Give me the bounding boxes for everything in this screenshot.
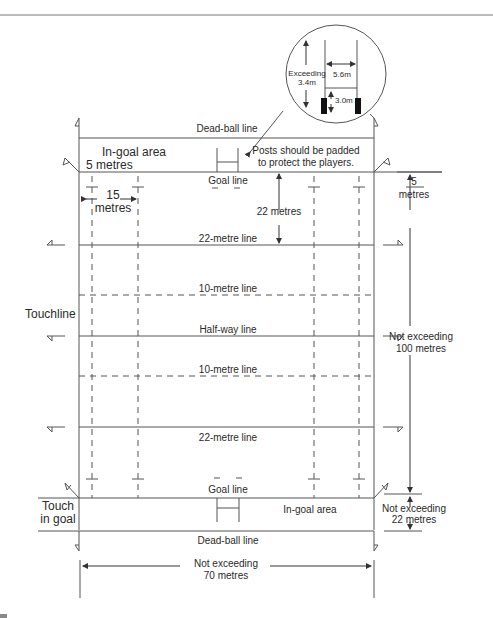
dead-ball-line-bottom-label: Dead-ball line	[197, 535, 258, 546]
length-label-2: 100 metres	[396, 343, 446, 354]
goal-post-inset	[247, 25, 386, 156]
width-label-2: 70 metres	[204, 570, 248, 581]
ten-metre-line-top-label: 10-metre line	[199, 283, 257, 294]
fifteen-metres-unit: metres	[95, 202, 132, 215]
half-way-line-label: Half-way line	[199, 324, 256, 335]
five-metres-top-label: 5 metres	[86, 159, 133, 172]
width-label-1: Not exceeding	[194, 558, 258, 569]
goal-posts-bottom	[217, 498, 239, 522]
touchline-label: Touchline	[25, 308, 76, 321]
twenty-two-line-top-label: 22-metre line	[199, 233, 257, 244]
length-label-1: Not exceeding	[389, 331, 453, 342]
in-goal-depth-label-2: 22 metres	[392, 514, 436, 525]
ten-metre-line-bottom-label: 10-metre line	[199, 364, 257, 375]
goal-posts-top	[217, 148, 238, 172]
five-metres-right-unit: metres	[399, 189, 430, 200]
twenty-two-line-bottom-label: 22-metre line	[199, 432, 257, 443]
goal-line-top-label: Goal line	[208, 175, 247, 186]
five-metres-right-num: 5	[411, 176, 417, 187]
dead-ball-line-top-label: Dead-ball line	[196, 123, 257, 134]
inset-width-label: 5.6m	[333, 70, 351, 79]
callout-line-2: to protect the players.	[258, 157, 354, 168]
touch-in-goal-label-2: in goal	[40, 513, 75, 526]
in-goal-depth-label-1: Not exceeding	[382, 503, 446, 514]
in-goal-area-bottom-label: In-goal area	[283, 504, 336, 515]
inset-height-label-1: Exceeding	[288, 69, 325, 78]
corner-mark	[0, 614, 7, 618]
inset-crossbar-label: 3.0m	[335, 96, 353, 105]
inset-height-label-2: 3.4m	[298, 78, 316, 87]
callout-line-1: Posts should be padded	[252, 145, 359, 156]
goal-line-bottom-label: Goal line	[208, 484, 247, 495]
twenty-two-metres-label: 22 metres	[257, 206, 301, 217]
